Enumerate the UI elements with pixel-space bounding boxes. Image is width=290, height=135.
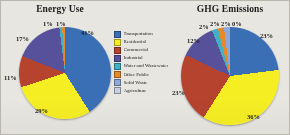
pie-slice-percent-label: 41% (81, 29, 94, 36)
pie-energy-use (19, 27, 111, 119)
pie-slice-percent-label: 2% (199, 23, 209, 30)
pie-slice-percent-label: 17% (16, 35, 29, 42)
chart-title-ghg-emissions: GHG Emissions (169, 3, 290, 15)
legend-item-label: Commercial (124, 47, 149, 53)
legend-item-label: Residential (124, 39, 147, 45)
legend-swatch-icon (114, 71, 121, 78)
legend-item-label: Industrial (124, 55, 143, 61)
pie-slice-percent-label: 2% (221, 20, 231, 27)
legend-item: Transportation (114, 30, 172, 38)
pie-slice-percent-label: 29% (35, 107, 48, 114)
chart-legend: TransportationResidentialCommercialIndus… (114, 30, 172, 95)
chart-panel-ghg-emissions: GHG Emissions 23%36%23%12%2%2%2%0% (169, 1, 290, 135)
legend-swatch-icon (114, 31, 121, 38)
pie-slice-percent-label: 36% (247, 113, 260, 120)
legend-swatch-icon (114, 39, 121, 46)
pie-container-ghg-emissions: 23%36%23%12%2%2%2%0% (181, 27, 279, 125)
chart-panel-energy-use: Energy Use 41%29%11%17%1%1% (1, 1, 119, 135)
legend-item: Residential (114, 38, 172, 46)
legend-item-label: Water and Wastewater (124, 63, 169, 69)
legend-item: Agriculture (114, 87, 172, 95)
pie-slice-percent-label: 0% (232, 20, 242, 27)
legend-swatch-icon (114, 55, 121, 62)
legend-item: Water and Wastewater (114, 62, 172, 70)
legend-swatch-icon (114, 87, 121, 94)
pie-slice-percent-label: 23% (260, 32, 273, 39)
legend-item: Other Public (114, 70, 172, 78)
legend-item-label: Agriculture (124, 88, 147, 94)
legend-item: Industrial (114, 54, 172, 62)
legend-item-label: Other Public (124, 72, 149, 78)
pie-slice-percent-label: 1% (43, 20, 53, 27)
pie-slice-percent-label: 11% (4, 74, 17, 81)
legend-item-label: Transportation (124, 31, 153, 37)
legend-swatch-icon (114, 47, 121, 54)
pie-slice-percent-label: 2% (210, 20, 220, 27)
pie-slice-percent-label: 12% (187, 37, 200, 44)
legend-swatch-icon (114, 79, 121, 86)
legend-swatch-icon (114, 63, 121, 70)
pie-container-energy-use: 41%29%11%17%1%1% (19, 27, 111, 119)
legend-item: Commercial (114, 46, 172, 54)
legend-item-label: Solid Waste (124, 80, 148, 86)
chart-title-energy-use: Energy Use (1, 3, 119, 15)
legend-item: Solid Waste (114, 79, 172, 87)
pie-chart-figure: Energy Use 41%29%11%17%1%1% Transportati… (0, 0, 290, 135)
pie-slice-percent-label: 1% (56, 20, 66, 27)
pie-slice-percent-label: 23% (172, 89, 185, 96)
